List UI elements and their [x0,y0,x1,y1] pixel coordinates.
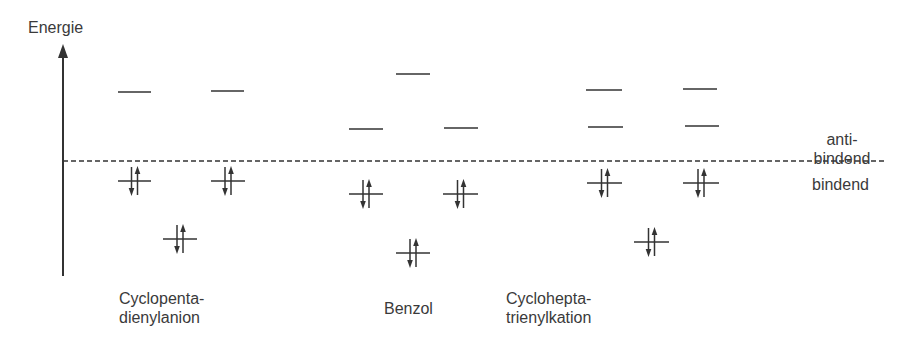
antibonding-line1: anti- [812,130,872,149]
molecule-label-cycloheptatrienyl-cation: Cyclohepta- trienylkation [506,289,591,327]
arrow-up-icon [58,44,68,58]
occupied-orbital [396,238,430,268]
molecule-name-line2: trienylkation [506,308,591,327]
molecule-levels-2 [586,89,719,257]
energy-axis [58,44,68,276]
region-label-bonding: bindend [812,175,869,194]
molecule-label-cyclopentadienyl-anion: Cyclopenta- dienylanion [119,289,204,327]
occupied-orbital [211,166,245,196]
occupied-orbital [118,166,151,196]
molecule-levels-0 [118,91,245,254]
molecule-levels-1 [349,74,478,268]
occupied-orbital [587,168,622,198]
region-label-antibonding: anti- bindend [812,130,872,168]
occupied-orbital [163,224,197,254]
antibonding-line2: bindend [812,149,872,168]
molecule-name-line2: dienylanion [119,308,204,327]
occupied-orbital [349,179,383,209]
molecule-label-benzol: Benzol [384,299,433,318]
molecule-name-line1: Cyclopenta- [119,289,204,308]
energy-levels [118,74,719,268]
molecule-name-line1: Benzol [384,299,433,318]
occupied-orbital [634,227,669,257]
occupied-orbital [683,168,719,198]
molecule-name-line1: Cyclohepta- [506,289,591,308]
occupied-orbital [443,179,478,209]
axis-label-energie: Energie [28,18,83,37]
